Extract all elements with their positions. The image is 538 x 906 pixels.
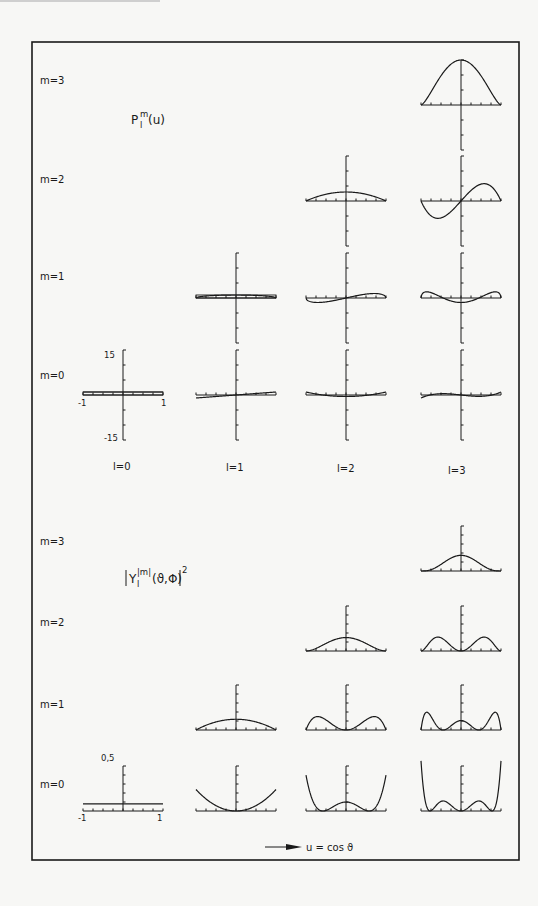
plot-grid xyxy=(83,60,501,811)
caption-arrow-icon xyxy=(286,844,302,850)
top-y-min-label: -15 xyxy=(104,433,118,443)
title-top-tail: (u) xyxy=(148,113,165,127)
row-label-bottom-m1: m=1 xyxy=(40,699,64,710)
plot-bottom-l3-m1 xyxy=(421,685,501,730)
row-label-bottom-m0: m=0 xyxy=(40,779,64,790)
title-top-base: P xyxy=(131,113,138,127)
bottom-y-max-label: 0,5 xyxy=(101,753,115,763)
column-label-l3: l=3 xyxy=(448,465,466,476)
plot-bottom-l1-m1 xyxy=(196,685,276,730)
top-panel-title: P m l (u) xyxy=(131,109,165,130)
row-label-top-m2: m=2 xyxy=(40,174,64,185)
plot-bottom-l0-m0 xyxy=(83,766,163,811)
title-bottom-outer-sup: 2 xyxy=(182,565,187,575)
x-axis-caption: u = cos ϑ xyxy=(265,842,353,853)
top-x-min-label: -1 xyxy=(78,398,86,408)
plot-top-l3-m2 xyxy=(421,156,501,246)
title-bottom-tail: (ϑ,Φ) xyxy=(152,572,182,586)
plot-top-l0-m0 xyxy=(83,350,163,440)
plot-bottom-l2-m0 xyxy=(306,766,386,811)
figure-frame xyxy=(32,42,519,860)
plot-bottom-l2-m2 xyxy=(306,606,386,651)
title-bottom-sup: |m| xyxy=(137,567,151,577)
legendre-figure: m=3 m=2 m=1 m=0 P m l (u) l=0 l=1 l=2 l=… xyxy=(0,0,538,906)
row-label-top-m1: m=1 xyxy=(40,271,64,282)
column-label-l2: l=2 xyxy=(337,463,355,474)
plot-top-l2-m1 xyxy=(306,253,386,343)
row-label-bottom-m2: m=2 xyxy=(40,617,64,628)
axis-value-labels: 15 -15 -1 1 0,5 -1 1 xyxy=(78,350,166,823)
plot-top-l3-m1 xyxy=(421,253,501,343)
title-bottom-sub: l xyxy=(137,579,139,589)
row-label-top-m0: m=0 xyxy=(40,370,64,381)
row-label-bottom-m3: m=3 xyxy=(40,536,64,547)
column-label-l0: l=0 xyxy=(113,461,131,472)
title-bottom-base: Y xyxy=(128,572,137,586)
top-y-max-label: 15 xyxy=(104,350,115,360)
plot-bottom-l2-m1 xyxy=(306,685,386,730)
bottom-panel-title: Y |m| l (ϑ,Φ) 2 xyxy=(126,565,187,589)
caption-text: u = cos ϑ xyxy=(306,842,353,853)
title-top-sub: l xyxy=(140,120,142,130)
top-row-labels: m=3 m=2 m=1 m=0 xyxy=(40,75,64,381)
plot-top-l3-m0 xyxy=(421,350,501,440)
plot-top-l2-m0 xyxy=(306,350,386,440)
plot-top-l1-m1 xyxy=(196,253,276,343)
plot-bottom-l3-m2 xyxy=(421,606,501,651)
bottom-row-labels: m=3 m=2 m=1 m=0 xyxy=(40,536,64,790)
plot-top-l1-m0 xyxy=(196,350,276,440)
plot-bottom-l3-m3 xyxy=(421,526,501,571)
plot-top-l3-m3 xyxy=(421,60,501,150)
plot-top-l2-m2 xyxy=(306,156,386,246)
bottom-x-max-label: 1 xyxy=(157,813,162,823)
row-label-top-m3: m=3 xyxy=(40,75,64,86)
column-label-l1: l=1 xyxy=(226,462,244,473)
plot-bottom-l1-m0 xyxy=(196,766,276,811)
column-labels: l=0 l=1 l=2 l=3 xyxy=(113,461,466,476)
bottom-x-min-label: -1 xyxy=(78,813,86,823)
top-x-max-label: 1 xyxy=(161,398,166,408)
plot-bottom-l3-m0 xyxy=(421,761,501,811)
